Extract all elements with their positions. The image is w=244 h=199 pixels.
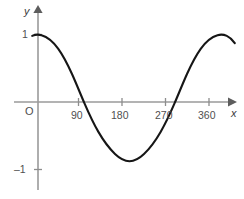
x-tick-label-180: 180 — [111, 110, 129, 121]
x-axis-label: x — [231, 108, 237, 119]
x-tick-label-360: 360 — [198, 110, 216, 121]
y-axis-label: y — [24, 6, 30, 17]
y-tick-label-minus-1: –1 — [14, 164, 26, 175]
cosine-curve — [32, 35, 235, 162]
x-tick-label-90: 90 — [71, 110, 83, 121]
cosine-graph-figure: y x O 1 –1 90 180 270 360 — [0, 0, 244, 199]
y-axis-arrowhead — [33, 5, 42, 13]
origin-label: O — [25, 106, 34, 117]
plot-area — [0, 0, 244, 199]
x-axis-arrowhead — [228, 97, 237, 106]
x-tick-label-270: 270 — [155, 110, 173, 121]
y-tick-label-1: 1 — [22, 29, 28, 40]
